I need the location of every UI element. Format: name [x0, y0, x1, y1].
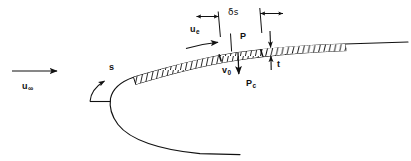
arc-length-arrow [90, 81, 111, 102]
edge-velocity-arrow [186, 42, 218, 48]
arc-coordinate-label: s [109, 63, 114, 72]
figure-root: u∞ s ue δs P v0 Pc t [0, 0, 411, 161]
edge-velocity-label: ue [190, 25, 200, 34]
wall-hatch-right [258, 38, 353, 64]
diagram-canvas [0, 0, 411, 161]
blowing-velocity-arrow [238, 53, 239, 75]
surface-pressure-label: P [240, 32, 246, 41]
chamber-pressure-label: Pc [246, 79, 256, 88]
body-outline [110, 42, 408, 155]
surface-pressure-indicator [231, 34, 232, 52]
element-length-label: δs [228, 8, 239, 17]
freestream-velocity-label: u∞ [22, 82, 33, 91]
blowing-velocity-label: v0 [222, 66, 231, 75]
wall-thickness-label: t [277, 60, 280, 69]
